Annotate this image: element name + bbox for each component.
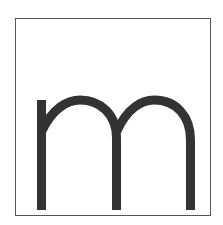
letter-m-glyph: [0, 0, 223, 225]
